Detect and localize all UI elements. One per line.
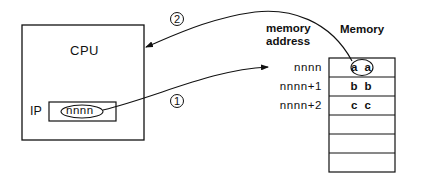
memory-header: Memory bbox=[340, 24, 384, 36]
address-label: nnnn+2 bbox=[252, 100, 322, 112]
memory-address-header: memory address bbox=[266, 22, 311, 48]
ip-register-value: nnnn bbox=[66, 105, 94, 117]
cpu-label: CPU bbox=[70, 44, 99, 57]
address-label: nnnn+1 bbox=[252, 81, 322, 93]
arrow-step-1 bbox=[103, 67, 268, 110]
memory-cell: a a bbox=[329, 62, 395, 74]
address-label: nnnn bbox=[252, 62, 322, 74]
ip-register-label: IP bbox=[30, 105, 42, 118]
memory-cell: c c bbox=[329, 100, 395, 112]
step-1-marker: 1 bbox=[170, 94, 184, 108]
fetch-cycle-diagram: CPU IP nnnn 2 1 memory address Memory nn… bbox=[0, 0, 421, 176]
step-2-marker: 2 bbox=[170, 12, 184, 26]
memory-cell: b b bbox=[329, 81, 395, 93]
